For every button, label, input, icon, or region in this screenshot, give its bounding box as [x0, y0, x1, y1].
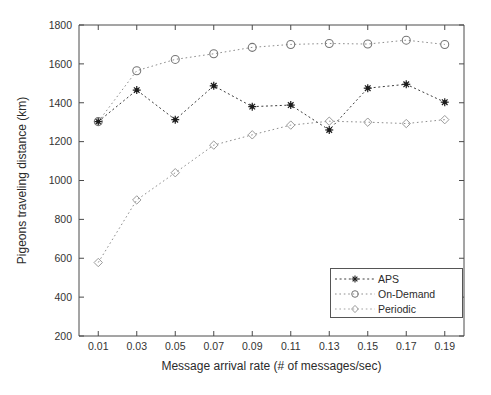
x-tick-label: 0.05 [165, 340, 186, 352]
data-point-marker [133, 86, 141, 94]
y-tick-label: 1200 [49, 135, 73, 147]
y-tick-label: 200 [54, 330, 72, 342]
legend-label-aps: APS [376, 273, 399, 285]
y-tick-label: 400 [54, 291, 72, 303]
x-tick-label: 0.09 [242, 340, 263, 352]
y-tick-label: 800 [54, 213, 72, 225]
y-axis-title: Pigeons traveling distance (km) [15, 97, 29, 264]
data-point-marker [133, 67, 141, 75]
data-point-marker [248, 103, 256, 111]
data-point-marker [133, 196, 141, 204]
x-tick-label: 0.07 [204, 340, 225, 352]
x-tick-label: 0.15 [358, 340, 379, 352]
series-line-periodic [98, 120, 445, 263]
data-point-marker [287, 101, 295, 109]
chart-legend: APS On-Demand Periodic [330, 268, 463, 318]
legend-label-ondemand: On-Demand [376, 288, 435, 300]
x-tick-label: 0.01 [88, 340, 109, 352]
data-point-marker [402, 80, 410, 88]
x-tick-label: 0.13 [319, 340, 340, 352]
y-tick-label: 600 [54, 252, 72, 264]
y-tick-label: 1600 [49, 58, 73, 70]
legend-sample-periodic [334, 302, 376, 316]
x-tick-label: 0.11 [281, 340, 301, 352]
chart-figure: 200400600800100012001400160018000.010.03… [0, 0, 491, 395]
legend-sample-ondemand [334, 287, 376, 301]
data-point-marker [364, 84, 372, 92]
y-tick-label: 1400 [49, 97, 73, 109]
legend-label-periodic: Periodic [376, 303, 416, 315]
y-tick-label: 1800 [49, 19, 73, 31]
legend-item-aps: APS [331, 271, 462, 286]
series-line-aps [98, 84, 445, 130]
y-tick-label: 1000 [49, 174, 73, 186]
x-tick-label: 0.03 [127, 340, 148, 352]
series-line-on-demand [98, 40, 445, 121]
x-axis-title: Message arrival rate (# of messages/sec) [161, 359, 381, 373]
data-point-marker [325, 126, 333, 134]
legend-sample-aps [334, 272, 376, 286]
data-point-marker [171, 169, 179, 177]
chart-plot-area: 200400600800100012001400160018000.010.03… [0, 0, 491, 395]
data-point-marker [441, 98, 449, 106]
data-point-marker [210, 82, 218, 90]
legend-item-periodic: Periodic [331, 301, 462, 316]
x-tick-label: 0.19 [435, 340, 456, 352]
x-tick-label: 0.17 [396, 340, 417, 352]
legend-item-ondemand: On-Demand [331, 286, 462, 301]
